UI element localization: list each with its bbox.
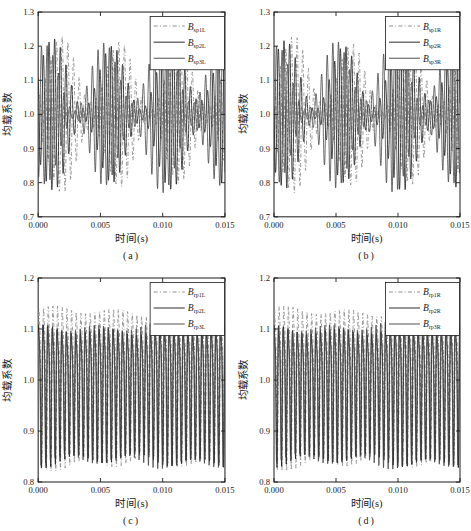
y-tick-label: 1.3 xyxy=(23,7,34,17)
x-axis-label: 时间(s) xyxy=(351,497,383,510)
y-tick-label: 1.2 xyxy=(259,41,270,51)
legend: Bsp1RBsp2RBsp3R xyxy=(386,17,460,70)
x-tick-label: 0.010 xyxy=(388,485,407,495)
y-tick-label: 1.3 xyxy=(259,7,270,17)
subplot-a: 0.0000.0050.0100.0150.70.80.91.01.11.21.… xyxy=(0,0,236,266)
subplot-a-canvas: 0.0000.0050.0100.0150.70.80.91.01.11.21.… xyxy=(0,0,236,266)
x-axis-label: 时间(s) xyxy=(115,497,149,510)
y-tick-label: 1.1 xyxy=(23,324,34,334)
x-tick-label: 0.015 xyxy=(215,485,234,495)
x-tick-label: 0.005 xyxy=(326,220,345,230)
y-tick-label: 1.1 xyxy=(23,75,34,85)
y-tick-label: 1.2 xyxy=(259,273,270,283)
y-tick-label: 0.9 xyxy=(259,426,270,436)
y-axis-label: 均载系数 xyxy=(237,93,249,134)
legend: Brp1LBrp2LBrp3L xyxy=(150,283,224,336)
y-axis-label: 均载系数 xyxy=(237,359,249,400)
subplot-c-canvas: 0.0000.0050.0100.0150.80.91.01.11.2时间(s)… xyxy=(0,266,236,531)
y-tick-label: 0.8 xyxy=(259,178,270,188)
subplot-caption: (c) xyxy=(123,515,140,527)
x-tick-label: 0.015 xyxy=(215,220,234,230)
x-tick-label: 0.005 xyxy=(91,220,110,230)
x-tick-label: 0.015 xyxy=(450,220,469,230)
y-tick-label: 1.2 xyxy=(23,41,34,51)
y-tick-label: 1.0 xyxy=(23,375,34,385)
x-tick-label: 0.010 xyxy=(388,220,407,230)
subplot-b: 0.0000.0050.0100.0150.70.80.91.01.11.21.… xyxy=(236,0,471,266)
y-tick-label: 1.0 xyxy=(23,109,34,119)
x-tick-label: 0.005 xyxy=(91,485,110,495)
x-tick-label: 0.015 xyxy=(450,485,469,495)
subplot-caption: (d) xyxy=(358,515,376,527)
y-tick-label: 1.1 xyxy=(259,75,270,85)
y-tick-label: 0.9 xyxy=(23,426,34,436)
legend: Brp1RBrp2RBrp3R xyxy=(386,283,460,336)
x-tick-label: 0.005 xyxy=(326,485,345,495)
x-axis-label: 时间(s) xyxy=(351,232,383,245)
subplot-caption: (b) xyxy=(358,250,376,262)
y-tick-label: 0.8 xyxy=(23,477,34,487)
y-tick-label: 0.8 xyxy=(23,178,34,188)
y-axis-label: 均载系数 xyxy=(1,92,13,136)
y-tick-label: 0.8 xyxy=(259,477,270,487)
subplot-d-canvas: 0.0000.0050.0100.0150.80.91.01.11.2时间(s)… xyxy=(236,266,471,531)
y-axis-label: 均载系数 xyxy=(1,358,13,402)
y-tick-label: 1.2 xyxy=(23,273,34,283)
legend: Bsp1LBsp2LBsp3L xyxy=(150,17,224,70)
load-sharing-coefficient-figure: 0.0000.0050.0100.0150.70.80.91.01.11.21.… xyxy=(0,0,471,531)
x-tick-label: 0.010 xyxy=(153,220,172,230)
y-tick-label: 1.1 xyxy=(259,324,270,334)
y-tick-label: 0.9 xyxy=(259,144,270,154)
y-tick-label: 1.0 xyxy=(259,109,270,119)
subplot-d: 0.0000.0050.0100.0150.80.91.01.11.2时间(s)… xyxy=(236,266,471,531)
x-tick-label: 0.010 xyxy=(153,485,172,495)
y-tick-label: 0.7 xyxy=(23,212,34,222)
subplot-caption: (a) xyxy=(123,250,140,262)
subplot-c: 0.0000.0050.0100.0150.80.91.01.11.2时间(s)… xyxy=(0,266,236,531)
subplot-b-canvas: 0.0000.0050.0100.0150.70.80.91.01.11.21.… xyxy=(236,0,471,266)
x-axis-label: 时间(s) xyxy=(115,232,149,245)
y-tick-label: 0.9 xyxy=(23,144,34,154)
y-tick-label: 1.0 xyxy=(259,375,270,385)
y-tick-label: 0.7 xyxy=(259,212,270,222)
